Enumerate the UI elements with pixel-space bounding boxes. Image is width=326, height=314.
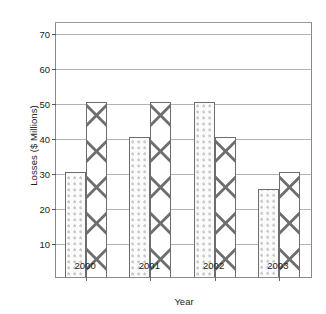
y-tick-mark [52,69,56,70]
y-tick-mark [52,244,56,245]
bar-2000-series-crosshatch [86,102,107,277]
y-tick-label: 40 [39,133,50,144]
x-tick-mark [279,277,280,281]
x-tick-mark [215,277,216,281]
y-tick-mark [52,174,56,175]
y-tick-mark [52,104,56,105]
y-tick-label: 60 [39,63,50,74]
y-tick-mark [52,34,56,35]
bar-2002-series-crosshatch [215,137,236,277]
y-tick-label: 70 [39,28,50,39]
gridline [56,34,311,35]
y-tick-label: 20 [39,203,50,214]
x-tick-label-2002: 2002 [203,260,224,271]
y-tick-mark [52,139,56,140]
bar-2002-series-dotted [194,102,215,277]
bar-2001-series-dotted [129,137,150,277]
x-tick-label-2000: 2000 [75,260,96,271]
x-axis-title: Year [55,296,313,307]
gridline [56,69,311,70]
bar-2001-series-crosshatch [150,102,171,277]
y-tick-label: 10 [39,238,50,249]
x-tick-mark [150,277,151,281]
y-tick-mark [52,209,56,210]
bar-chart: Losses ($ Millions) 10203040506070 20002… [0,0,326,314]
x-tick-label-2003: 2003 [267,260,288,271]
y-axis-title: Losses ($ Millions) [28,66,39,226]
x-tick-label-2001: 2001 [139,260,160,271]
y-tick-label: 50 [39,98,50,109]
x-tick-mark [86,277,87,281]
y-tick-label: 30 [39,168,50,179]
plot-area: 10203040506070 [55,22,312,278]
